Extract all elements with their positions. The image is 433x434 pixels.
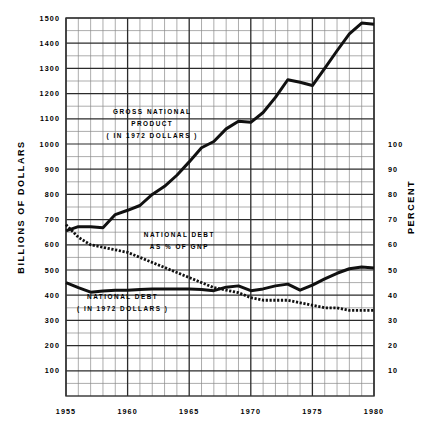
series-annotation-debt-pct: NATIONAL DEBT	[144, 231, 215, 238]
y-axis-tick-label: 600	[45, 240, 60, 249]
y2-axis-tick-label: 40	[388, 291, 398, 300]
y-axis-tick-label: 200	[45, 341, 60, 350]
y-axis-tick-label: 700	[45, 215, 60, 224]
y2-axis-tick-label: 80	[388, 190, 398, 199]
x-axis-tick-label: 1960	[117, 407, 137, 416]
x-axis-tick-label: 1975	[302, 407, 322, 416]
y2-axis-tick-label: 100	[388, 140, 403, 149]
chart-background	[0, 0, 433, 434]
y-axis-tick-label: 1100	[40, 114, 60, 123]
y-axis-tick-label: 100	[45, 366, 60, 375]
x-axis-tick-label: 1970	[241, 407, 261, 416]
y2-axis-tick-label: 70	[388, 215, 398, 224]
y-axis-tick-label: 800	[45, 190, 60, 199]
series-annotation-gnp: ( IN 1972 DOLLARS )	[107, 132, 198, 140]
series-annotation-debt-dollars: NATIONAL DEBT	[87, 293, 158, 300]
y-axis-tick-label: 1000	[40, 140, 60, 149]
y-axis-tick-label: 1300	[40, 64, 60, 73]
series-annotation-debt-dollars: ( IN 1972 DOLLARS )	[77, 305, 168, 313]
series-annotation-gnp: GROSS NATIONAL	[113, 108, 191, 115]
y2-axis-tick-label: 90	[388, 165, 398, 174]
y-axis-tick-label: 300	[45, 316, 60, 325]
y2-axis-tick-label: 10	[388, 366, 398, 375]
x-axis-tick-label: 1955	[56, 407, 76, 416]
y2-axis-tick-label: 20	[388, 341, 398, 350]
y-axis-title: BILLIONS OF DOLLARS	[16, 140, 26, 273]
y-axis-tick-label: 1400	[40, 39, 60, 48]
y-axis-tick-label: 400	[45, 291, 60, 300]
national-debt-gnp-chart: 1002003004005006007008009001000110012001…	[0, 0, 433, 434]
y2-axis-tick-label: 30	[388, 316, 398, 325]
y2-axis-tick-label: 60	[388, 240, 398, 249]
y2-axis-title: PERCENT	[406, 180, 416, 234]
y-axis-tick-label: 500	[45, 266, 60, 275]
y-axis-tick-label: 1200	[40, 89, 60, 98]
series-annotation-gnp: PRODUCT	[131, 120, 173, 127]
series-annotation-debt-pct: AS % OF GNP	[150, 243, 209, 250]
x-axis-tick-label: 1980	[364, 407, 384, 416]
y-axis-tick-label: 900	[45, 165, 60, 174]
y-axis-tick-label: 1500	[40, 14, 60, 23]
x-axis-tick-label: 1965	[179, 407, 199, 416]
chart-container: 1002003004005006007008009001000110012001…	[0, 0, 433, 434]
y2-axis-tick-label: 50	[388, 266, 398, 275]
